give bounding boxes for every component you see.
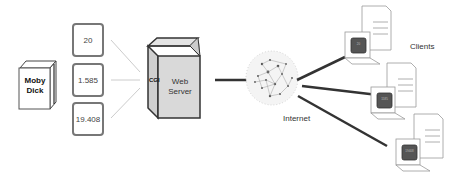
cgi-label: CGI — [149, 77, 160, 83]
client-computer-icon — [345, 6, 391, 64]
diagram-canvas — [0, 0, 459, 181]
value-box: 19.408 — [72, 102, 104, 136]
value-box: 20 — [72, 23, 104, 57]
clients-label: Clients — [410, 42, 434, 51]
client-screen-value: 19408 — [402, 149, 417, 153]
value-box: 1.585 — [72, 63, 104, 97]
internet-label: Internet — [283, 114, 310, 123]
book-title: Moby Dick — [20, 76, 50, 96]
client-screen-value: 1585 — [377, 97, 392, 101]
client-computer-icon — [396, 114, 443, 171]
internet-network-icon — [246, 51, 298, 105]
client-screen-value: 20 — [351, 42, 366, 46]
client-computer-icon — [371, 63, 416, 119]
connector-lines — [111, 40, 140, 118]
web-server-label: Web Server — [160, 77, 200, 97]
